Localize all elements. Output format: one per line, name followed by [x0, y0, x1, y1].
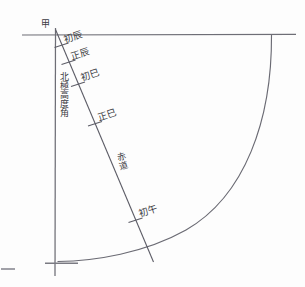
diagram-canvas	[0, 0, 305, 287]
polar-altitude-caption: 北極高度角	[59, 72, 70, 117]
equator-line	[56, 30, 154, 263]
astronomical-diagram: 甲 初辰 正辰 初巳 正巳 初午 北極高度角 赤道	[0, 0, 305, 287]
vertical-axis	[55, 28, 56, 276]
axis-origin-label: 甲	[41, 20, 50, 29]
